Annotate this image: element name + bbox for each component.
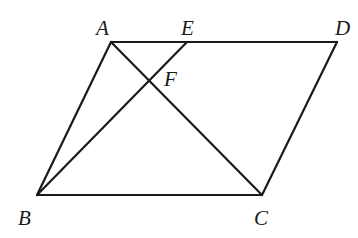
label-C: C (254, 206, 269, 230)
segment-AC (111, 42, 262, 195)
label-F: F (163, 67, 177, 91)
segment-CD (262, 42, 337, 195)
parallelogram-diagram: A E D F B C (0, 0, 358, 238)
segments-group (37, 42, 337, 195)
label-B: B (18, 206, 31, 230)
label-A: A (94, 16, 109, 40)
labels-group: A E D F B C (18, 16, 350, 230)
segment-BE (37, 42, 187, 195)
label-E: E (180, 16, 194, 40)
label-D: D (334, 16, 350, 40)
segment-AB (37, 42, 111, 195)
